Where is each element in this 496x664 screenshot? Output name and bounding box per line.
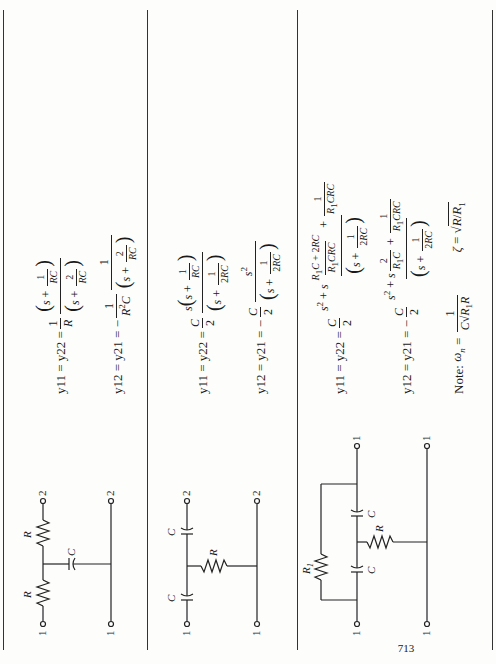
label-port-2-bottom: 2 (250, 491, 262, 497)
equation-y11: y11 = y22 = C2 s2 + sR1C + 2RCR1CRC + 1R… (311, 176, 369, 394)
label-capacitor-left: C (365, 567, 377, 574)
label-port-1-top-right: 1 (350, 436, 362, 442)
label-port-1-top: 1 (180, 631, 192, 637)
equation-y12: y12 = y21 = − C2 s2 + s2R1C + 1R1CRC(s +… (379, 176, 434, 394)
label-port-1-bottom: 1 (250, 631, 262, 637)
label-resistor: R (207, 549, 219, 556)
label-resistor: R (373, 525, 385, 532)
equation-y11: y11 = y22 = 1R (s + 1RC)(s + 2RC) (33, 233, 88, 394)
equations-row-3: y11 = y22 = C2 s2 + sR1C + 2RCR1CRC + 1R… (311, 176, 484, 394)
equation-y11: y11 = y22 = C2 s(s + 1RC)(s + 12RC) (175, 239, 230, 394)
table-row-2: 1 1 2 2 C C R y11 = y22 = C2 s(s + 1RC)(… (147, 0, 297, 664)
label-resistor-r1: R1 (300, 563, 315, 574)
circuit-twin-c-t (147, 464, 297, 664)
table-row-3: 1 1 1 1 R1 C C R y11 = y22 = C2 s2 + sR1… (297, 0, 492, 664)
label-port-1-top-left: 1 (350, 631, 362, 637)
label-port-1-bottom-right: 1 (420, 436, 432, 442)
circuit-bridged-t-rc (3, 464, 147, 664)
label-port-1-bottom-left: 1 (420, 631, 432, 637)
label-capacitor-right: C (165, 529, 177, 536)
label-port-2-top: 2 (36, 491, 48, 497)
label-capacitor: C (65, 549, 77, 556)
label-port-1-bottom: 1 (104, 631, 116, 637)
label-port-2-top: 2 (180, 491, 192, 497)
label-capacitor-left: C (165, 595, 177, 602)
equation-y12: y12 = y21 = − C2 s2(s + 12RC) (240, 239, 283, 394)
label-capacitor-right: C (365, 511, 377, 518)
equation-note: Note: ωn = 1C√R1R ζ = √R/R1 (444, 176, 474, 394)
label-port-1-top: 1 (36, 631, 48, 637)
equation-y12: y12 = y21 = − 1R2C 1(s + 2RC) (98, 233, 139, 394)
circuit-bridged-t-cc (297, 444, 492, 664)
table-rule-bottom (492, 10, 493, 650)
label-resistor-right: R (21, 531, 33, 538)
label-resistor-left: R (21, 591, 33, 598)
equations-row-1: y11 = y22 = 1R (s + 1RC)(s + 2RC) y12 = … (33, 233, 148, 394)
label-port-2-bottom: 2 (104, 491, 116, 497)
page-number: 713 (398, 642, 415, 654)
equations-row-2: y11 = y22 = C2 s(s + 1RC)(s + 12RC) y12 … (175, 239, 292, 394)
table-row-1: 1 1 2 2 R R C y11 = y22 = 1R (s + 1RC)(s… (3, 0, 147, 664)
textbook-page: 1 1 2 2 R R C y11 = y22 = 1R (s + 1RC)(s… (0, 0, 496, 664)
